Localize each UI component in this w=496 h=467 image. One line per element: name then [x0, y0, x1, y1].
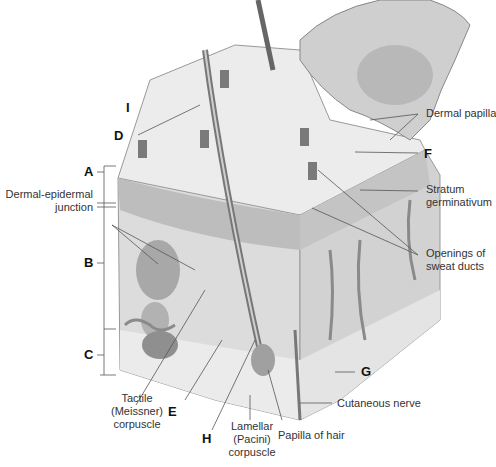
- label-letter-f: F: [424, 146, 432, 161]
- label-letter-b: B: [84, 255, 93, 270]
- label-stratum-germinativum: Stratum germinativum: [426, 183, 492, 209]
- sweat-pore: [138, 140, 147, 158]
- label-tactile-corpuscle: Tactile (Meissner) corpuscle: [102, 392, 172, 431]
- dermal-papillae-texture: [357, 45, 433, 105]
- label-letter-h: H: [202, 431, 211, 446]
- label-papilla-of-hair: Papilla of hair: [278, 429, 345, 442]
- label-letter-c: C: [84, 347, 93, 362]
- label-letter-d: D: [114, 128, 123, 143]
- label-openings-of-sweat-ducts: Openings of sweat ducts: [426, 247, 485, 273]
- sweat-gland: [136, 240, 180, 300]
- hair-bulb: [251, 344, 275, 376]
- label-cutaneous-nerve: Cutaneous nerve: [337, 397, 421, 410]
- label-dermal-epidermal-junction: Dermal-epidermal junction: [6, 188, 93, 214]
- label-letter-i: I: [126, 100, 130, 115]
- label-lamellar-corpuscle: Lamellar (Pacini) corpuscle: [222, 420, 282, 459]
- label-dermal-papilla: Dermal papilla: [426, 107, 496, 120]
- label-letter-g: G: [361, 364, 371, 379]
- label-letter-a: A: [84, 164, 93, 179]
